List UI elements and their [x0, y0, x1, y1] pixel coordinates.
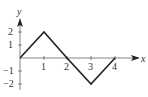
y-tick-label: 1 [8, 39, 13, 50]
y-tick-label: −1 [3, 65, 14, 76]
y-tick-label: −2 [3, 78, 14, 89]
y-axis-label: y [16, 6, 22, 17]
y-tick-label: 2 [8, 26, 13, 37]
x-tick-label: 4 [112, 61, 117, 72]
x-tick-label: 2 [64, 61, 69, 72]
x-axis-label: x [140, 53, 146, 64]
x-tick-label: 3 [88, 61, 93, 72]
chart: y x 1 2 3 4 2 1 −1 −2 [0, 0, 148, 97]
x-tick-label: 1 [41, 61, 46, 72]
